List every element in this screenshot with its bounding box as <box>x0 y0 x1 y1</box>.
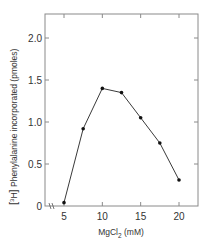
plot-frame <box>45 14 198 206</box>
y-axis-title: [3H] Phenylalanine incorporated (pmoles) <box>7 48 19 205</box>
x-tick-label: 20 <box>173 211 185 222</box>
data-point-marker <box>62 201 66 205</box>
y-tick-label: 0.5 <box>28 159 42 170</box>
x-axis-title: MgCl2 (mM) <box>98 227 144 239</box>
y-axis-ticks: 00.51.01.52.0 <box>28 33 198 212</box>
x-tick-label: 5 <box>61 211 67 222</box>
y-tick-label: 0 <box>36 201 42 212</box>
y-tick-label: 2.0 <box>28 33 42 44</box>
svg-text:[3H] Phenylalanine incorporate: [3H] Phenylalanine incorporated (pmoles) <box>7 48 19 205</box>
data-point-marker <box>101 87 105 91</box>
line-chart: 00.51.01.52.0 5101520 MgCl2 (mM) [3H] Ph… <box>0 0 212 247</box>
data-point-marker <box>177 178 181 182</box>
y-tick-label: 1.0 <box>28 117 42 128</box>
data-series <box>62 87 181 205</box>
x-axis-ticks: 5101520 <box>61 14 185 222</box>
y-tick-label: 1.5 <box>28 75 42 86</box>
series-line <box>64 88 179 202</box>
data-point-marker <box>120 91 124 95</box>
data-point-marker <box>158 141 162 145</box>
x-tick-label: 10 <box>97 211 109 222</box>
data-point-marker <box>139 116 143 120</box>
x-tick-label: 15 <box>135 211 147 222</box>
data-point-marker <box>81 127 85 131</box>
